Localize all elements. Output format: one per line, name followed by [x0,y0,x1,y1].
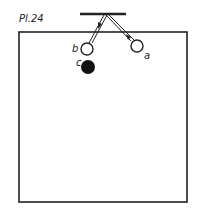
string-a [106,15,134,41]
label-b: b [72,43,78,54]
ball-b [81,43,93,55]
ball-c [81,60,95,74]
box-outline [19,32,187,202]
plate-label: Pl.24 [19,13,44,24]
label-c: c [76,57,82,68]
diagram: Pl.24 b a c [0,0,201,220]
label-a: a [144,50,150,61]
ball-a [131,40,143,52]
string-b [89,15,107,43]
